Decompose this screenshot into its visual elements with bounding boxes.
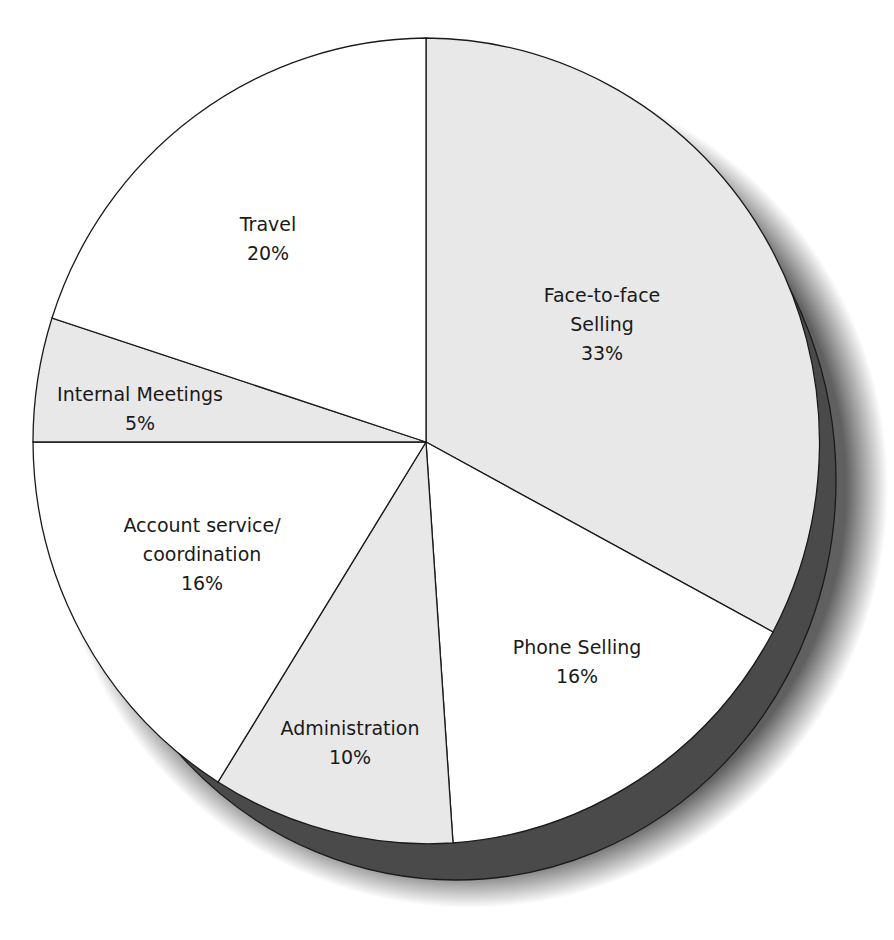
label-face-to-face-value: 33%: [581, 342, 623, 364]
label-phone-selling-value: 16%: [556, 665, 598, 687]
label-administration-name: Administration: [280, 717, 419, 739]
label-phone-selling-name: Phone Selling: [513, 636, 642, 658]
label-internal-meetings-name: Internal Meetings: [57, 383, 223, 405]
label-face-to-face-name-2: Selling: [570, 313, 634, 335]
label-account-service-name-1: Account service/: [123, 514, 281, 536]
pie-slices: [33, 38, 820, 844]
label-travel-value: 20%: [247, 242, 289, 264]
label-account-service-name-2: coordination: [143, 543, 262, 565]
label-account-service-value: 16%: [181, 572, 223, 594]
label-administration-value: 10%: [329, 746, 371, 768]
label-face-to-face-name-1: Face-to-face: [544, 284, 661, 306]
pie-chart: Travel 20% Face-to-face Selling 33% Inte…: [0, 0, 894, 940]
label-travel-name: Travel: [239, 213, 296, 235]
label-internal-meetings-value: 5%: [125, 412, 155, 434]
